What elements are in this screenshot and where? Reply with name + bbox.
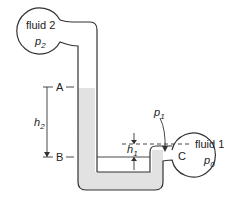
fluid1-label: fluid 1 bbox=[195, 138, 224, 150]
manometer-liquid bbox=[78, 88, 163, 190]
fluid2-pressure: p2 bbox=[34, 35, 46, 50]
p1-label: p1 bbox=[153, 106, 165, 121]
fluid2-label: fluid 2 bbox=[26, 19, 55, 31]
point-a-label: A bbox=[56, 81, 64, 93]
point-c-label: C bbox=[178, 150, 186, 162]
manometer-diagram: fluid 2 p2 A B C h2 h1 p1 fluid 1 p0 bbox=[0, 0, 248, 203]
p1-pointer-arrow bbox=[160, 118, 165, 150]
h2-label: h2 bbox=[34, 116, 45, 131]
left-tube-outer-top bbox=[60, 20, 97, 30]
fluid1-pressure: p0 bbox=[203, 154, 215, 169]
h1-label: h1 bbox=[127, 143, 138, 158]
point-b-label: B bbox=[56, 151, 63, 163]
h2-arrowhead-down-icon bbox=[44, 152, 50, 157]
